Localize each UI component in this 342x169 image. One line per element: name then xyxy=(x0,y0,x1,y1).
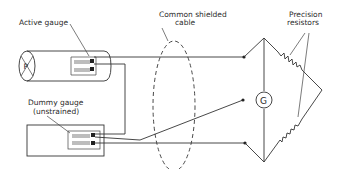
cable-leader xyxy=(162,28,168,41)
galvanometer: G xyxy=(256,92,272,108)
label-precision-line2: resistors xyxy=(287,18,319,27)
active-gauge-cylinder: P xyxy=(19,51,111,81)
wheatstone-bridge xyxy=(241,33,322,162)
pressure-symbol: P xyxy=(24,62,29,71)
label-dummy-gauge-line2: (unstrained) xyxy=(33,107,79,116)
strain-gauge-bridge-diagram: P Active gauge Dummy gauge (unstrained) xyxy=(0,0,342,169)
dummy-gauge-leader xyxy=(47,116,70,133)
wires xyxy=(94,57,245,143)
label-dummy-gauge-line1: Dummy gauge xyxy=(28,98,84,107)
galvanometer-symbol: G xyxy=(260,96,267,106)
shielded-cable-outline xyxy=(153,41,195,169)
label-active-gauge: Active gauge xyxy=(19,18,68,27)
label-cable-line2: cable xyxy=(175,18,196,27)
